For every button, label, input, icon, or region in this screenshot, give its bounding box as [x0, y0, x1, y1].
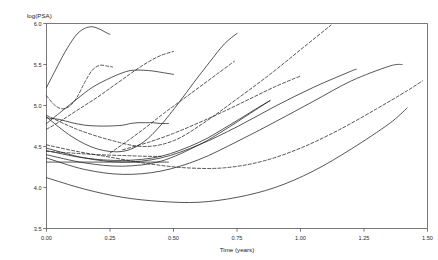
trajectory-line [123, 76, 301, 150]
trajectory-line [47, 70, 174, 124]
trajectory-line [47, 51, 174, 129]
trajectory-line [47, 118, 169, 126]
y-tick-label: 3.5 [34, 226, 42, 232]
chart-canvas: 0.000.250.500.751.001.251.50 3.54.04.55.… [0, 0, 438, 260]
psa-trajectory-chart: 0.000.250.500.751.001.251.50 3.54.04.55.… [0, 0, 438, 260]
x-tick-label: 1.25 [359, 235, 370, 241]
x-axis-ticks: 0.000.250.500.751.001.251.50 [41, 229, 433, 241]
trajectory-line [47, 69, 357, 162]
trajectory-line [47, 64, 403, 174]
x-tick-label: 0.75 [232, 235, 243, 241]
y-tick-label: 4.5 [34, 144, 42, 150]
x-axis-title: Time (years) [220, 246, 255, 253]
x-tick-label: 0.25 [105, 235, 116, 241]
trajectory-line [47, 65, 113, 109]
trajectory-line [47, 33, 238, 152]
x-tick-label: 1.00 [295, 235, 306, 241]
x-tick-label: 0.50 [168, 235, 179, 241]
y-tick-label: 4.0 [34, 185, 42, 191]
y-tick-label: 5.5 [34, 62, 42, 68]
x-tick-label: 1.50 [422, 235, 433, 241]
y-tick-label: 5.0 [34, 103, 42, 109]
y-axis-title: log(PSA) [27, 12, 52, 19]
trajectory-line [47, 27, 111, 88]
series-curves [47, 25, 423, 202]
x-tick-label: 0.00 [41, 235, 52, 241]
trajectory-line [47, 81, 423, 169]
y-tick-label: 6.0 [34, 21, 42, 27]
trajectory-line [47, 25, 331, 146]
y-axis-ticks: 3.54.04.55.05.56.0 [34, 21, 47, 232]
